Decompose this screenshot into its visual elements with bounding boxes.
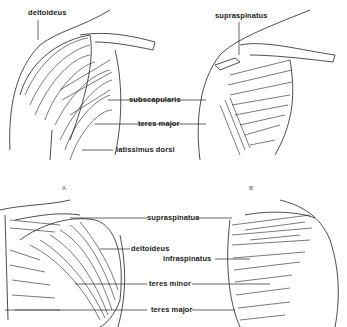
panel-a-drawing bbox=[10, 10, 155, 160]
label-deltoideus-anterior: deltoideus bbox=[28, 8, 67, 17]
label-teres-minor: teres minor bbox=[149, 279, 191, 288]
panel-label-b: B bbox=[249, 185, 253, 191]
shoulder-muscle-illustration bbox=[0, 0, 347, 327]
label-deltoideus-posterior: deltoideus bbox=[131, 244, 170, 253]
label-subscapularis: subscapularis bbox=[129, 95, 181, 104]
label-supraspinatus-posterior: supraspinatus bbox=[147, 213, 200, 222]
panel-label-a: A bbox=[62, 185, 66, 191]
panel-b-drawing bbox=[198, 10, 335, 160]
label-teres-major-posterior: teres major bbox=[151, 305, 193, 314]
label-teres-major-anterior: teres major bbox=[138, 119, 180, 128]
label-supraspinatus-anterior: supraspinatus bbox=[215, 11, 268, 20]
panel-d-drawing bbox=[228, 200, 339, 327]
panel-c-drawing bbox=[0, 200, 125, 327]
label-infraspinatus: infraspinatus bbox=[163, 254, 211, 263]
label-latissimus-dorsi: latissimus dorsi bbox=[116, 145, 175, 154]
